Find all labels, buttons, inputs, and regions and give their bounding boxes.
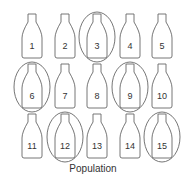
bottle-label: 12 [60, 141, 70, 151]
bottle-5: 5 [152, 14, 172, 58]
bottle-label: 15 [157, 141, 167, 151]
bottle-label: 1 [29, 41, 34, 51]
bottle-icon [22, 14, 42, 58]
bottle-icon [120, 114, 140, 158]
bottle-13: 13 [87, 114, 107, 158]
bottle-icon [55, 64, 75, 108]
population-diagram: 123456789101112131415 [0, 0, 186, 180]
bottle-label: 9 [127, 91, 132, 101]
bottle-4: 4 [120, 14, 140, 58]
bottle-11: 11 [22, 114, 42, 158]
bottle-icon [152, 64, 172, 108]
bottle-label: 2 [62, 41, 67, 51]
bottle-2: 2 [55, 14, 75, 58]
bottle-15: 15 [144, 112, 180, 162]
bottle-icon [22, 64, 42, 108]
bottle-icon [87, 64, 107, 108]
bottle-icon [87, 114, 107, 158]
bottle-icon [87, 14, 107, 58]
bottle-6: 6 [14, 62, 50, 112]
bottle-icon [120, 14, 140, 58]
bottle-icon [152, 114, 172, 158]
bottle-icon [22, 114, 42, 158]
bottle-label: 10 [157, 91, 167, 101]
bottle-7: 7 [55, 64, 75, 108]
bottle-icon [55, 114, 75, 158]
bottle-8: 8 [87, 64, 107, 108]
bottle-label: 11 [27, 141, 36, 151]
bottle-label: 8 [94, 91, 99, 101]
bottle-label: 5 [159, 41, 164, 51]
bottle-label: 14 [125, 141, 135, 151]
bottle-12: 12 [47, 112, 83, 162]
bottle-label: 4 [127, 41, 132, 51]
bottle-1: 1 [22, 14, 42, 58]
bottle-label: 7 [62, 91, 67, 101]
bottle-icon [152, 14, 172, 58]
bottle-10: 10 [152, 64, 172, 108]
bottle-icon [55, 14, 75, 58]
bottle-9: 9 [112, 62, 148, 112]
population-caption: Population [0, 163, 186, 174]
bottle-icon [120, 64, 140, 108]
bottle-label: 3 [94, 41, 99, 51]
bottle-14: 14 [120, 114, 140, 158]
bottle-label: 13 [92, 141, 102, 151]
bottle-3: 3 [79, 12, 115, 62]
bottle-label: 6 [29, 91, 34, 101]
